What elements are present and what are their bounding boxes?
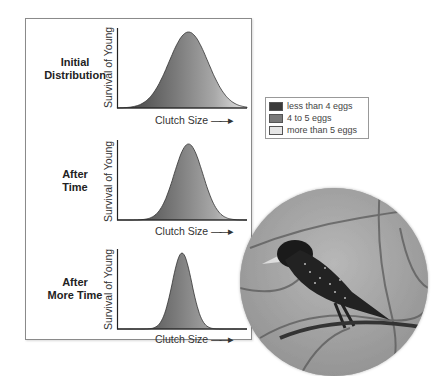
- legend-swatch-medium: [269, 114, 283, 123]
- panel-1-xlabel: Clutch Size ——▸: [155, 114, 232, 126]
- panel-3-xlabel: Clutch Size ——▸: [155, 333, 232, 345]
- legend-item: 4 to 5 eggs: [269, 112, 365, 124]
- legend-label: more than 5 eggs: [287, 125, 357, 135]
- bird-illustration: [240, 188, 428, 376]
- distribution-curve: [117, 32, 247, 108]
- legend-label: 4 to 5 eggs: [287, 113, 332, 123]
- panel-1-xlabel-text: Clutch Size: [155, 114, 208, 126]
- panel-2-ylabel: Survival of Young: [102, 141, 114, 222]
- legend-swatch-dark: [269, 102, 283, 111]
- arrow-right-icon: ——▸: [211, 114, 232, 126]
- legend: less than 4 eggs 4 to 5 eggs more than 5…: [265, 97, 369, 139]
- panel-3-plot: [117, 249, 247, 331]
- panel-2-xlabel-text: Clutch Size: [155, 225, 208, 237]
- legend-item: less than 4 eggs: [269, 100, 365, 112]
- panel-2-xlabel: Clutch Size ——▸: [155, 225, 232, 237]
- distribution-curve: [117, 253, 247, 329]
- legend-swatch-light: [269, 126, 283, 135]
- legend-item: more than 5 eggs: [269, 124, 365, 136]
- panel-2-plot: [117, 140, 247, 222]
- panel-3-xlabel-text: Clutch Size: [155, 333, 208, 345]
- distribution-curve: [117, 144, 247, 220]
- panel-1-ylabel: Survival of Young: [102, 27, 114, 108]
- arrow-right-icon: ——▸: [211, 333, 232, 345]
- panel-3-ylabel: Survival of Young: [102, 249, 114, 330]
- starling-photo: [240, 188, 428, 376]
- legend-label: less than 4 eggs: [287, 101, 353, 111]
- panel-1-plot: [117, 28, 247, 110]
- arrow-right-icon: ——▸: [211, 225, 232, 237]
